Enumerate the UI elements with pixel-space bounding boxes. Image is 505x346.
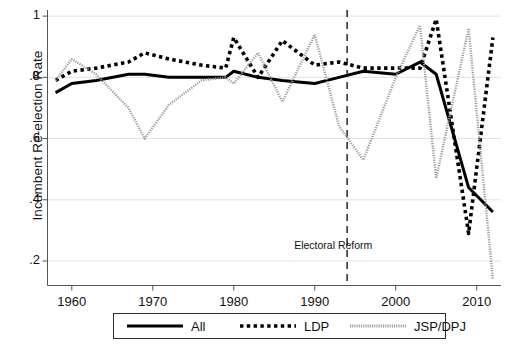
series-line-ldp — [56, 19, 493, 233]
legend-item-jsp-dpj: JSP/DPJ — [349, 314, 466, 338]
x-tick-label: 2000 — [366, 294, 426, 309]
legend-item-ldp: LDP — [239, 314, 329, 338]
legend-label-ldp: LDP — [304, 319, 329, 334]
series-line-all — [56, 62, 493, 212]
x-tick-label: 1960 — [42, 294, 102, 309]
y-tick-label: .2 — [10, 252, 40, 267]
x-tick-label: 1990 — [285, 294, 345, 309]
y-tick-label: .6 — [10, 130, 40, 145]
data-series-layer — [56, 19, 493, 279]
y-tick-label: .8 — [10, 68, 40, 83]
chart-legend: All LDP JSP/DPJ — [113, 313, 446, 339]
legend-item-all: All — [126, 314, 205, 338]
y-tick-label: .4 — [10, 191, 40, 206]
legend-label-jsp-dpj: JSP/DPJ — [414, 319, 466, 334]
electoral-reform-annotation: Electoral Reform — [294, 239, 372, 251]
x-tick-label: 1980 — [204, 294, 264, 309]
chart-figure: Incumbent Re-election Rate Electoral Ref… — [0, 0, 505, 346]
y-tick-marks — [43, 16, 48, 261]
y-tick-label: 1 — [10, 7, 40, 22]
legend-swatch-jsp-dpj — [349, 320, 407, 332]
x-tick-marks — [72, 286, 477, 291]
x-tick-label: 1970 — [123, 294, 183, 309]
x-tick-label: 2010 — [447, 294, 505, 309]
legend-swatch-all — [126, 320, 184, 332]
legend-label-all: All — [191, 319, 205, 334]
legend-swatch-ldp — [239, 320, 297, 332]
